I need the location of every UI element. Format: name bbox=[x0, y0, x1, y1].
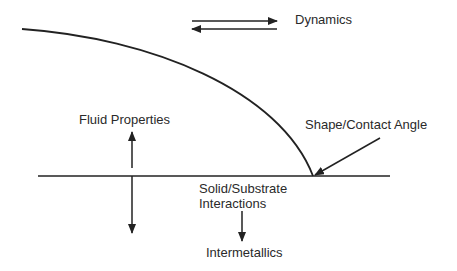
dynamics-label: Dynamics bbox=[295, 12, 352, 27]
interactions-label: Interactions bbox=[199, 196, 266, 211]
droplet-profile-curve bbox=[22, 29, 313, 176]
intermetallics-label: Intermetallics bbox=[206, 245, 283, 260]
contact-angle-arrow bbox=[315, 138, 380, 175]
wetting-diagram bbox=[0, 0, 457, 271]
solid-substrate-label: Solid/Substrate bbox=[199, 181, 287, 196]
fluid-properties-label: Fluid Properties bbox=[79, 112, 170, 127]
shape-contact-angle-label: Shape/Contact Angle bbox=[305, 117, 427, 132]
